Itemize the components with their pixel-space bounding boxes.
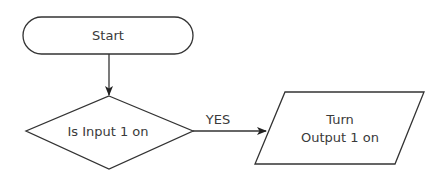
decision-node: Is Input 1 on [26,96,193,169]
start-node: Start [23,17,193,54]
output-label-line2: Output 1 on [301,130,379,145]
parallelogram-shape [255,92,424,164]
decision-label: Is Input 1 on [67,124,148,139]
edge-yes-label: YES [205,112,230,127]
output-node: Turn Output 1 on [255,92,424,164]
output-label-line1: Turn [325,112,354,127]
flowchart: Start Is Input 1 on YES Turn Output 1 on [0,0,443,174]
start-label: Start [92,28,124,43]
